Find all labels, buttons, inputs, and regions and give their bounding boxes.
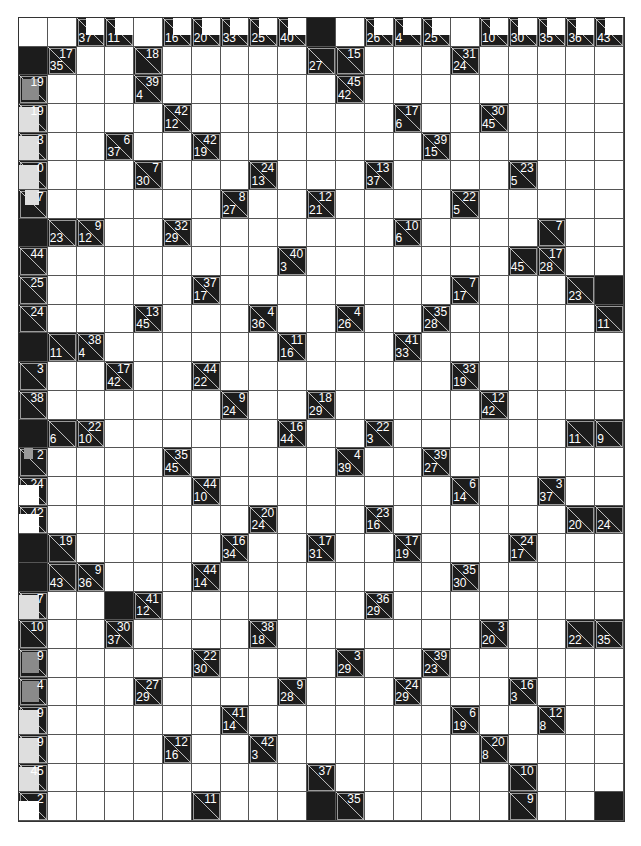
entry-cell[interactable] [77,104,106,133]
entry-cell[interactable] [595,678,624,707]
entry-cell[interactable] [307,75,336,104]
entry-cell[interactable] [105,276,134,305]
entry-cell[interactable] [566,448,595,477]
entry-cell[interactable] [278,190,307,219]
entry-cell[interactable] [249,276,278,305]
entry-cell[interactable] [595,47,624,76]
entry-cell[interactable] [307,247,336,276]
entry-cell[interactable] [365,735,394,764]
entry-cell[interactable] [77,133,106,162]
entry-cell[interactable] [77,391,106,420]
entry-cell[interactable] [221,219,250,248]
entry-cell[interactable] [163,420,192,449]
entry-cell[interactable] [77,362,106,391]
entry-cell[interactable] [451,534,480,563]
entry-cell[interactable] [249,104,278,133]
entry-cell[interactable] [48,506,77,535]
entry-cell[interactable] [221,47,250,76]
entry-cell[interactable] [105,190,134,219]
entry-cell[interactable] [48,706,77,735]
entry-cell[interactable] [163,391,192,420]
entry-cell[interactable] [422,391,451,420]
entry-cell[interactable] [365,333,394,362]
entry-cell[interactable] [394,735,423,764]
entry-cell[interactable] [249,47,278,76]
entry-cell[interactable] [538,362,567,391]
entry-cell[interactable] [278,506,307,535]
entry-cell[interactable] [77,764,106,793]
entry-cell[interactable] [394,620,423,649]
entry-cell[interactable] [336,190,365,219]
entry-cell[interactable] [249,678,278,707]
entry-cell[interactable] [249,190,278,219]
entry-cell[interactable] [509,190,538,219]
entry-cell[interactable] [480,276,509,305]
entry-cell[interactable] [134,792,163,821]
entry-cell[interactable] [192,534,221,563]
entry-cell[interactable] [77,620,106,649]
entry-cell[interactable] [221,75,250,104]
entry-cell[interactable] [105,563,134,592]
entry-cell[interactable] [278,305,307,334]
entry-cell[interactable] [538,563,567,592]
entry-cell[interactable] [249,649,278,678]
entry-cell[interactable] [422,276,451,305]
entry-cell[interactable] [394,362,423,391]
entry-cell[interactable] [134,104,163,133]
entry-cell[interactable] [566,75,595,104]
entry-cell[interactable] [249,792,278,821]
entry-cell[interactable] [595,362,624,391]
entry-cell[interactable] [595,706,624,735]
entry-cell[interactable] [77,649,106,678]
entry-cell[interactable] [480,247,509,276]
entry-cell[interactable] [365,563,394,592]
entry-cell[interactable] [221,563,250,592]
entry-cell[interactable] [77,792,106,821]
entry-cell[interactable] [336,104,365,133]
entry-cell[interactable] [422,620,451,649]
entry-cell[interactable] [451,18,480,47]
entry-cell[interactable] [422,792,451,821]
entry-cell[interactable] [566,735,595,764]
entry-cell[interactable] [134,534,163,563]
entry-cell[interactable] [509,706,538,735]
entry-cell[interactable] [595,477,624,506]
entry-cell[interactable] [422,75,451,104]
entry-cell[interactable] [595,104,624,133]
entry-cell[interactable] [221,506,250,535]
entry-cell[interactable] [307,477,336,506]
entry-cell[interactable] [451,305,480,334]
entry-cell[interactable] [451,104,480,133]
entry-cell[interactable] [422,735,451,764]
entry-cell[interactable] [48,190,77,219]
entry-cell[interactable] [249,534,278,563]
entry-cell[interactable] [480,792,509,821]
entry-cell[interactable] [394,190,423,219]
entry-cell[interactable] [278,104,307,133]
entry-cell[interactable] [221,792,250,821]
entry-cell[interactable] [134,133,163,162]
entry-cell[interactable] [365,477,394,506]
entry-cell[interactable] [105,735,134,764]
entry-cell[interactable] [365,534,394,563]
entry-cell[interactable] [163,592,192,621]
entry-cell[interactable] [365,649,394,678]
entry-cell[interactable] [538,75,567,104]
entry-cell[interactable] [538,448,567,477]
entry-cell[interactable] [48,477,77,506]
entry-cell[interactable] [566,333,595,362]
entry-cell[interactable] [451,333,480,362]
entry-cell[interactable] [307,161,336,190]
entry-cell[interactable] [480,764,509,793]
entry-cell[interactable] [480,190,509,219]
entry-cell[interactable] [307,333,336,362]
entry-cell[interactable] [595,333,624,362]
entry-cell[interactable] [566,534,595,563]
entry-cell[interactable] [48,391,77,420]
entry-cell[interactable] [105,448,134,477]
entry-cell[interactable] [394,764,423,793]
entry-cell[interactable] [538,735,567,764]
entry-cell[interactable] [307,706,336,735]
entry-cell[interactable] [278,649,307,678]
entry-cell[interactable] [278,161,307,190]
